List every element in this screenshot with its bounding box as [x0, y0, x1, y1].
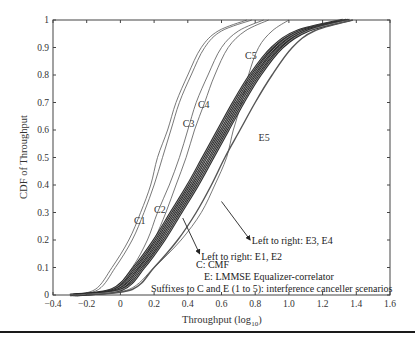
curve-label-c2: C2: [154, 204, 166, 215]
x-tick-label: 1.4: [350, 299, 362, 309]
y-tick-label: 0: [44, 290, 49, 300]
annotation-arrow-icon: [183, 218, 200, 254]
x-tick-label: 0.2: [148, 299, 160, 309]
arrow-annotations: Left to right: E3, E4Left to right: E1, …: [183, 202, 333, 262]
curve-label-c3: C3: [183, 118, 195, 129]
x-tick-label: 1.2: [317, 299, 329, 309]
annotation-text: Left to right: E3, E4: [252, 235, 333, 246]
x-axis-label: Throughput (log10): [182, 314, 262, 328]
x-tick-label: 0.8: [249, 299, 261, 309]
x-tick-label: 0: [118, 299, 123, 309]
curve-label-c1: C1: [134, 215, 146, 226]
y-tick-label: 1: [44, 15, 49, 25]
y-tick-label: 0.4: [37, 180, 49, 190]
x-tick-label: 0.6: [216, 299, 228, 309]
annotation-arrow-icon: [222, 202, 251, 241]
y-tick-label: 0.2: [37, 235, 49, 245]
x-tick-label: 1.6: [384, 299, 396, 309]
y-tick-label: 0.8: [37, 70, 49, 80]
y-tick-label: 0.3: [37, 208, 49, 218]
y-tick-label: 0.7: [37, 98, 49, 108]
legend-line-1: C: CMF: [196, 259, 230, 270]
curve-label-e5: E5: [259, 132, 270, 143]
y-tick-label: 0.1: [37, 263, 49, 273]
x-tick-label: −0.2: [78, 299, 95, 309]
x-tick-label: 0.4: [182, 299, 194, 309]
curve-label-c4: C4: [198, 99, 210, 110]
y-tick-label: 0.6: [37, 125, 49, 135]
x-tick-label: 1.0: [283, 299, 295, 309]
curve-label-c5: C5: [245, 50, 257, 61]
legend-line-2: E: LMMSE Equalizer-correlator: [204, 271, 334, 282]
legend-line-3: Suffixes to C and E (1 to 5): interferen…: [151, 283, 392, 295]
y-axis-label: CDF of Throughput: [18, 115, 29, 199]
x-tick-label: −0.4: [44, 299, 61, 309]
page-bottom-rule: [0, 331, 415, 333]
y-tick-label: 0.9: [37, 43, 49, 53]
cdf-throughput-chart: −0.4−0.200.20.40.60.81.01.21.41.6 00.10.…: [0, 0, 415, 344]
y-tick-label: 0.5: [37, 153, 49, 163]
